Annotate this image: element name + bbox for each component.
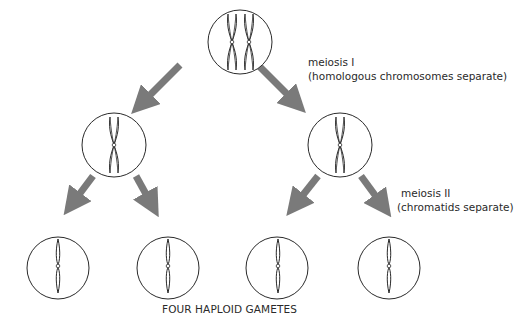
- gametes-caption: FOUR HAPLOID GAMETES: [162, 303, 297, 315]
- meiosis1-title: meiosis I: [308, 55, 507, 69]
- arrow-meiosis2-left-b: [136, 176, 152, 205]
- arrow-meiosis2-right-b: [361, 176, 383, 206]
- meiosis2-title: meiosis II: [397, 186, 514, 200]
- meiosis-diagram: [0, 0, 517, 322]
- gamete-cell-2: [137, 237, 199, 299]
- gamete-cell-1: [27, 237, 89, 299]
- gamete-cell-3: [246, 237, 308, 299]
- arrow-meiosis2-right-a: [295, 176, 318, 205]
- arrow-meiosis1-right: [258, 65, 296, 103]
- parent-cell: [208, 10, 272, 74]
- meiosis1-cell-right: [308, 113, 372, 177]
- meiosis1-description: (homologous chromosomes separate): [308, 69, 507, 83]
- arrow-meiosis2-left-a: [72, 176, 93, 204]
- gamete-cell-4: [358, 237, 420, 299]
- meiosis2-description: (chromatids separate): [397, 200, 514, 214]
- arrow-meiosis1-left: [141, 65, 180, 104]
- meiosis1-cell-left: [82, 113, 146, 177]
- meiosis2-label: meiosis II (chromatids separate): [397, 186, 514, 214]
- meiosis1-label: meiosis I (homologous chromosomes separa…: [308, 55, 507, 83]
